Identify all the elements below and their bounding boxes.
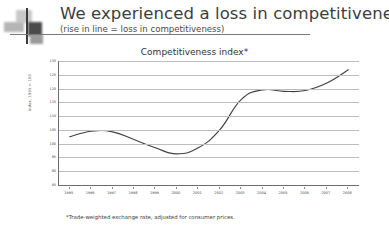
y-axis-tick-label: 95: [40, 155, 56, 159]
x-axis-tick-label: 2008: [334, 190, 360, 196]
gridline: [59, 171, 359, 172]
gridline: [59, 144, 359, 145]
gridline: [59, 157, 359, 158]
y-axis-tick-label: 125: [40, 73, 56, 77]
x-axis-tick-mark: [176, 187, 177, 189]
cross-blocks-logo-icon: [4, 8, 56, 44]
gridline: [59, 102, 359, 103]
gridline: [59, 61, 359, 62]
y-axis-tick-label: 105: [40, 128, 56, 132]
y-axis-tick-label: 110: [40, 114, 56, 118]
gridline: [59, 116, 359, 117]
x-axis-tick-mark: [304, 187, 305, 189]
x-axis-tick-mark: [112, 187, 113, 189]
y-axis-title: Index, 1995 = 100: [28, 71, 32, 111]
x-axis-tick-mark: [219, 187, 220, 189]
x-axis-tick-mark: [197, 187, 198, 189]
x-axis-tick-mark: [240, 187, 241, 189]
y-axis-tick-label: 115: [40, 100, 56, 104]
chart-plot-wrapper: Index, 1995 = 100 1301251201151101051009…: [27, 61, 367, 194]
y-axis-tick-label: 85: [40, 183, 56, 187]
plot-area: [58, 61, 359, 186]
x-axis-tick-mark: [262, 187, 263, 189]
x-axis-tick-mark: [347, 187, 348, 189]
x-axis-tick-mark: [154, 187, 155, 189]
y-axis-tick-labels: 130125120115110105100959085: [40, 61, 56, 185]
x-axis-tick-mark: [90, 187, 91, 189]
y-axis-tick-label: 90: [40, 169, 56, 173]
slide-header: We experienced a loss in competitiveness…: [0, 0, 389, 44]
series-line-competitiveness-index: [59, 61, 359, 185]
x-axis-tick-mark: [69, 187, 70, 189]
y-axis-tick-label: 100: [40, 142, 56, 146]
chart-title: Competitiveness index*: [0, 47, 389, 57]
page-subtitle: (rise in line = loss in competitiveness): [60, 24, 385, 35]
x-axis-tick-mark: [283, 187, 284, 189]
gridline: [59, 130, 359, 131]
y-axis-tick-label: 120: [40, 87, 56, 91]
x-axis-tick-labels: 1995199619971998199920002001200220032004…: [58, 187, 358, 197]
chart-card: Competitiveness index* Index, 1995 = 100…: [0, 44, 389, 251]
gridline: [59, 75, 359, 76]
x-axis-tick-mark: [133, 187, 134, 189]
page-title: We experienced a loss in competitiveness…: [60, 4, 385, 23]
gridline: [59, 89, 359, 90]
chart-footnote: *Trade-weighted exchange rate, adjusted …: [66, 214, 235, 220]
y-axis-tick-label: 130: [40, 59, 56, 63]
x-axis-tick-mark: [326, 187, 327, 189]
title-block: We experienced a loss in competitiveness…: [60, 4, 385, 35]
